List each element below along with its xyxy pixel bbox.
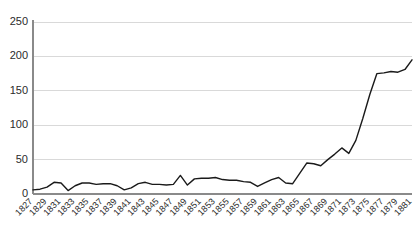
y-axis-tick-label: 200 bbox=[10, 49, 28, 61]
y-axis-tick-label: 250 bbox=[10, 15, 28, 27]
y-axis-tick-label: 100 bbox=[10, 118, 28, 130]
line-chart: 050100150200250 182718291831183318351837… bbox=[0, 0, 419, 235]
chart-container: 050100150200250 182718291831183318351837… bbox=[0, 0, 419, 235]
axis-group bbox=[33, 20, 412, 194]
gridline-group bbox=[33, 22, 412, 194]
y-axis-tick-label: 50 bbox=[16, 153, 28, 165]
y-axis-tick-label: 150 bbox=[10, 84, 28, 96]
x-axis-tick-labels: 1827182918311833183518371839184118431845… bbox=[13, 196, 413, 217]
y-axis-tick-labels: 050100150200250 bbox=[10, 15, 28, 199]
